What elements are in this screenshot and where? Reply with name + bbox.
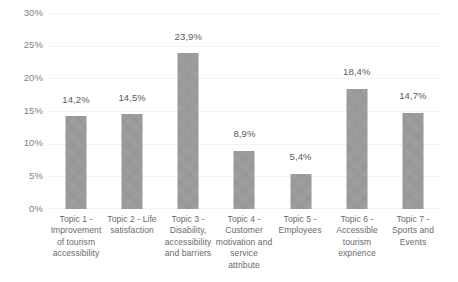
x-axis-label-6: Topic 6 - Accessible tourism exprience (328, 214, 386, 260)
bar-2[interactable] (122, 114, 143, 209)
bar-slot-7: 14,7% (385, 13, 441, 209)
bar-value-4: 8,9% (233, 128, 255, 139)
x-axis-label-4: Topic 4 - Customer motivation and servic… (215, 214, 273, 271)
bar-value-2: 14,5% (118, 92, 145, 103)
x-axis-category-labels: Topic 1 - Improvement of tourism accessi… (48, 214, 441, 280)
y-axis-tick-5: 5% (3, 171, 43, 181)
bar-slot-4: 8,9% (216, 13, 272, 209)
bar-4[interactable] (234, 151, 255, 209)
bar-6[interactable] (346, 89, 367, 209)
bar-value-7: 14,7% (399, 90, 426, 101)
y-axis-tick-25: 25% (3, 40, 43, 50)
x-axis-label-3: Topic 3 - Disability, accessibility and … (159, 214, 217, 260)
y-axis-tick-30: 30% (3, 8, 43, 18)
y-axis-tick-10: 10% (3, 138, 43, 148)
bar-value-6: 18,4% (343, 66, 370, 77)
bar-5[interactable] (290, 174, 311, 209)
bar-series: 14,2% 14,5% 23,9% 8,9% 5,4% 18,4% 14,7% (48, 13, 441, 209)
bar-slot-6: 18,4% (329, 13, 385, 209)
bar-value-3: 23,9% (175, 31, 202, 42)
bar-1[interactable] (66, 116, 87, 209)
x-axis-label-1: Topic 1 - Improvement of tourism accessi… (47, 214, 105, 260)
y-axis-tick-20: 20% (3, 73, 43, 83)
bar-slot-5: 5,4% (273, 13, 329, 209)
bar-value-1: 14,2% (62, 94, 89, 105)
bar-7[interactable] (402, 113, 423, 209)
bar-slot-2: 14,5% (104, 13, 160, 209)
bar-chart: 30% 25% 20% 15% 10% 5% 0% 14,2% 14,5% 23… (0, 0, 458, 282)
x-axis-label-5: Topic 5 - Employees (271, 214, 329, 237)
y-axis-tick-15: 15% (3, 106, 43, 116)
y-axis-tick-0: 0% (3, 204, 43, 214)
bar-slot-3: 23,9% (160, 13, 216, 209)
bar-3[interactable] (178, 53, 199, 209)
bar-slot-1: 14,2% (48, 13, 104, 209)
bar-value-5: 5,4% (290, 151, 312, 162)
x-axis-label-2: Topic 2 - Life satisfaction (103, 214, 161, 237)
x-axis-label-7: Topic 7 - Sports and Events (384, 214, 442, 248)
